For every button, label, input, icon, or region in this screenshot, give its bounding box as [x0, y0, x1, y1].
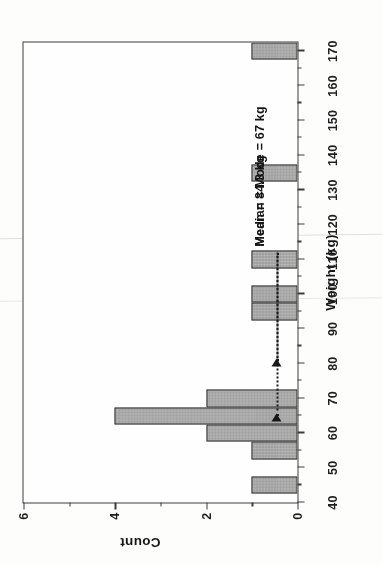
- x-axis-tick-label: 40: [325, 495, 339, 509]
- x-axis-tick: [297, 431, 304, 432]
- x-axis-minor-tick: [297, 240, 301, 241]
- y-axis-tick-label: 6: [16, 512, 30, 532]
- y-axis-tick: [206, 502, 207, 509]
- histogram-bar: [114, 407, 297, 424]
- x-axis-tick-label: 160: [325, 75, 339, 96]
- histogram-bar: [251, 42, 297, 59]
- x-axis-tick-label: 100: [325, 283, 339, 304]
- x-axis-tick-label: 90: [325, 321, 339, 335]
- x-axis-tick: [297, 397, 304, 398]
- histogram-bar: [206, 424, 297, 441]
- y-axis-minor-tick: [251, 502, 252, 506]
- y-axis-tick: [23, 502, 24, 509]
- x-axis-tick-label: 110: [325, 249, 339, 270]
- plot-area: Median = Mode = 67 kgMean = 84.3 kg: [23, 42, 297, 502]
- x-axis-tick-label: 130: [325, 179, 339, 200]
- x-axis-tick-label: 60: [325, 425, 339, 439]
- y-axis-minor-tick: [160, 502, 161, 506]
- x-axis-tick: [297, 223, 304, 224]
- y-axis-tick: [114, 502, 115, 509]
- x-axis-minor-tick: [297, 171, 301, 172]
- histogram-bar: [251, 441, 297, 458]
- histogram-figure: Count Weight (kg) Median = Mode = 67 kgM…: [0, 0, 382, 565]
- histogram-bar: [251, 250, 297, 267]
- y-axis-tick: [297, 502, 298, 509]
- y-axis-title: Count: [120, 534, 160, 549]
- y-axis-tick-label: 4: [107, 512, 121, 532]
- x-axis-tick-label: 120: [325, 214, 339, 235]
- x-axis-tick: [297, 49, 304, 50]
- y-axis-tick-label: 0: [290, 512, 304, 532]
- x-axis-minor-tick: [297, 67, 301, 68]
- x-axis-tick-label: 140: [325, 144, 339, 165]
- x-axis-minor-tick: [297, 344, 301, 345]
- x-axis-minor-tick: [297, 414, 301, 415]
- histogram-bar: [251, 285, 297, 302]
- histogram-bar: [251, 476, 297, 493]
- histogram-bar: [206, 389, 297, 406]
- x-axis-minor-tick: [297, 310, 301, 311]
- x-axis-tick: [297, 154, 304, 155]
- x-axis-tick-label: 50: [325, 460, 339, 474]
- plot-frame: Median = Mode = 67 kgMean = 84.3 kg 4050…: [22, 41, 298, 503]
- x-axis-minor-tick: [297, 483, 301, 484]
- x-axis-minor-tick: [297, 136, 301, 137]
- x-axis-tick: [297, 362, 304, 363]
- annotation-leader-line: [276, 252, 278, 360]
- y-axis-tick-label: 2: [199, 512, 213, 532]
- x-axis-tick-label: 150: [325, 109, 339, 130]
- y-axis-minor-tick: [69, 502, 70, 506]
- x-axis-minor-tick: [297, 379, 301, 380]
- x-axis-tick: [297, 188, 304, 189]
- x-axis-tick-label: 170: [325, 40, 339, 61]
- x-axis-minor-tick: [297, 101, 301, 102]
- x-axis-tick: [297, 327, 304, 328]
- annotation-arrowhead: [271, 358, 281, 366]
- x-axis-tick: [297, 258, 304, 259]
- x-axis-minor-tick: [297, 449, 301, 450]
- annotation-label-mean: Mean = 84.3 kg: [252, 155, 266, 246]
- x-axis-tick: [297, 466, 304, 467]
- annotation-arrowhead: [271, 413, 281, 421]
- histogram-bar: [251, 302, 297, 319]
- x-axis-tick: [297, 292, 304, 293]
- x-axis-minor-tick: [297, 206, 301, 207]
- scanned-page: Count Weight (kg) Median = Mode = 67 kgM…: [0, 0, 382, 565]
- x-axis-tick: [297, 84, 304, 85]
- x-axis-tick: [297, 119, 304, 120]
- x-axis-tick-label: 70: [325, 391, 339, 405]
- x-axis-tick-label: 80: [325, 356, 339, 370]
- x-axis-minor-tick: [297, 275, 301, 276]
